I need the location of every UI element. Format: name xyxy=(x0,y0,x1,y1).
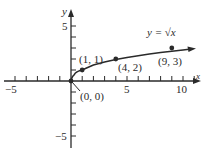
point-label-9-3: (9, 3) xyxy=(158,55,182,68)
point-label-1-1: (1, 1) xyxy=(79,53,103,66)
curve-arrow-icon xyxy=(188,47,197,53)
y-tick-label-minus5: −5 xyxy=(55,130,67,142)
origin-leader-line xyxy=(72,82,80,91)
x-tick-label-10: 10 xyxy=(176,83,188,95)
point-9-3 xyxy=(169,46,174,51)
function-label: y = √x xyxy=(146,26,176,38)
x-ticks xyxy=(15,76,194,81)
y-axis-arrow-icon xyxy=(68,9,74,17)
x-tick-label-5: 5 xyxy=(124,83,130,95)
point-1-1 xyxy=(80,68,85,73)
y-tick-label-5: 5 xyxy=(62,20,68,32)
x-tick-label-minus5: −5 xyxy=(5,83,17,95)
y-axis-label: y xyxy=(61,5,67,17)
point-label-0-0: (0, 0) xyxy=(80,90,104,103)
sqrt-graph: y x 5 −5 −5 5 10 (1, 1) (4, 2) (9, 3) (0… xyxy=(0,0,202,148)
x-axis-label: x xyxy=(195,71,200,81)
point-label-4-2: (4, 2) xyxy=(118,61,142,74)
